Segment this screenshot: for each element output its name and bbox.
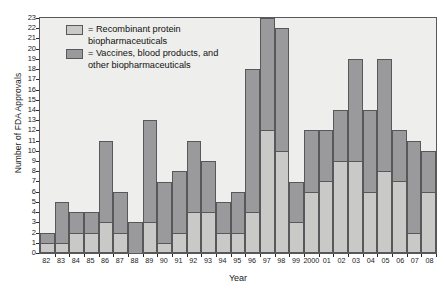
bar-segment-recombinant[interactable] [377, 171, 392, 253]
x-tickmark-05 [392, 254, 393, 257]
bar-segment-vaccines[interactable] [333, 110, 348, 161]
bar-column[interactable] [275, 18, 290, 253]
bar-segment-vaccines[interactable] [201, 161, 216, 212]
bar-column[interactable] [333, 18, 348, 253]
bar-column[interactable] [407, 18, 422, 253]
bar-segment-recombinant[interactable] [333, 161, 348, 253]
bar-segment-recombinant[interactable] [407, 233, 422, 253]
x-tick-86: 86 [98, 256, 113, 270]
bar-segment-vaccines[interactable] [113, 192, 128, 233]
y-tickmark-15 [36, 100, 39, 101]
bar-segment-recombinant[interactable] [392, 181, 407, 253]
bar-segment-vaccines[interactable] [128, 222, 143, 253]
bar-segment-vaccines[interactable] [55, 202, 70, 243]
x-tick-01: 01 [319, 256, 334, 270]
bar-segment-recombinant[interactable] [172, 233, 187, 253]
bar-column[interactable] [363, 18, 378, 253]
bar-segment-vaccines[interactable] [84, 212, 99, 232]
x-tickmark-97 [275, 254, 276, 257]
bar-segment-vaccines[interactable] [363, 110, 378, 192]
legend-item-vaccines: = Vaccines, blood products, and other bi… [66, 48, 218, 71]
bar-segment-vaccines[interactable] [245, 69, 260, 212]
bar-segment-vaccines[interactable] [348, 59, 363, 161]
bar-segment-recombinant[interactable] [216, 233, 231, 253]
bar-segment-recombinant[interactable] [55, 243, 70, 253]
bar-segment-vaccines[interactable] [40, 233, 55, 243]
y-axis-tick-labels: 01234567891011121314151617181920212223 [14, 0, 36, 291]
bar-column[interactable] [231, 18, 246, 253]
bar-segment-recombinant[interactable] [304, 192, 319, 253]
bar-segment-vaccines[interactable] [421, 151, 436, 192]
y-tickmark-21 [36, 38, 39, 39]
bar-segment-vaccines[interactable] [69, 212, 84, 232]
y-tickmark-0 [36, 253, 39, 254]
chart-legend: = Recombinant protein biopharmaceuticals… [66, 24, 218, 72]
bar-column[interactable] [289, 18, 304, 253]
bar-segment-vaccines[interactable] [319, 130, 334, 181]
x-tickmark-96 [260, 254, 261, 257]
bar-column[interactable] [348, 18, 363, 253]
bar-segment-recombinant[interactable] [231, 233, 246, 253]
x-tick-04: 04 [363, 256, 378, 270]
legend-label-vaccines: = Vaccines, blood products, and other bi… [88, 48, 218, 71]
x-tick-92: 92 [186, 256, 201, 270]
y-tickmark-9 [36, 161, 39, 162]
bar-segment-vaccines[interactable] [407, 141, 422, 233]
bar-segment-vaccines[interactable] [143, 120, 158, 222]
x-tickmark-2000 [319, 254, 320, 257]
bar-segment-vaccines[interactable] [275, 28, 290, 151]
legend-item-recombinant: = Recombinant protein biopharmaceuticals [66, 24, 218, 47]
bar-segment-vaccines[interactable] [187, 141, 202, 213]
bar-column[interactable] [377, 18, 392, 253]
y-tick-14: 14 [14, 106, 36, 114]
bar-segment-vaccines[interactable] [392, 130, 407, 181]
bar-column[interactable] [421, 18, 436, 253]
bar-segment-recombinant[interactable] [363, 192, 378, 253]
bar-segment-recombinant[interactable] [40, 243, 55, 253]
bar-segment-vaccines[interactable] [289, 182, 304, 223]
x-tick-88: 88 [127, 256, 142, 270]
bar-column[interactable] [319, 18, 334, 253]
x-tickmark-92 [201, 254, 202, 257]
x-tickmark-95 [245, 254, 246, 257]
x-tick-85: 85 [83, 256, 98, 270]
y-tick-8: 8 [14, 167, 36, 175]
bar-column[interactable] [245, 18, 260, 253]
bar-column[interactable] [392, 18, 407, 253]
bar-segment-recombinant[interactable] [143, 222, 158, 253]
bar-segment-recombinant[interactable] [157, 243, 172, 253]
bar-segment-recombinant[interactable] [260, 130, 275, 253]
bar-segment-recombinant[interactable] [84, 233, 99, 253]
bar-segment-recombinant[interactable] [245, 212, 260, 253]
x-tickmark-90 [172, 254, 173, 257]
bar-segment-vaccines[interactable] [231, 192, 246, 233]
bar-segment-recombinant[interactable] [289, 222, 304, 253]
bar-column[interactable] [260, 18, 275, 253]
bar-column[interactable] [40, 18, 55, 253]
bar-segment-recombinant[interactable] [99, 222, 114, 253]
y-tickmark-10 [36, 151, 39, 152]
bar-segment-recombinant[interactable] [319, 181, 334, 253]
bar-column[interactable] [304, 18, 319, 253]
bar-segment-vaccines[interactable] [304, 130, 319, 191]
x-tickmark-94 [231, 254, 232, 257]
x-tickmark-87 [128, 254, 129, 257]
bar-segment-vaccines[interactable] [377, 59, 392, 171]
bar-segment-recombinant[interactable] [275, 151, 290, 253]
bar-segment-vaccines[interactable] [260, 18, 275, 130]
bar-segment-vaccines[interactable] [157, 182, 172, 243]
y-tick-9: 9 [14, 157, 36, 165]
bar-segment-vaccines[interactable] [99, 141, 114, 223]
bar-segment-recombinant[interactable] [201, 212, 216, 253]
bar-segment-recombinant[interactable] [113, 233, 128, 253]
bar-segment-vaccines[interactable] [216, 202, 231, 233]
x-tick-96: 96 [245, 256, 260, 270]
bar-segment-recombinant[interactable] [69, 233, 84, 253]
bar-segment-vaccines[interactable] [172, 171, 187, 232]
x-tickmark-82 [55, 254, 56, 257]
y-tick-19: 19 [14, 55, 36, 63]
bar-segment-recombinant[interactable] [421, 192, 436, 253]
y-tick-2: 2 [14, 229, 36, 237]
bar-segment-recombinant[interactable] [348, 161, 363, 253]
bar-segment-recombinant[interactable] [187, 212, 202, 253]
